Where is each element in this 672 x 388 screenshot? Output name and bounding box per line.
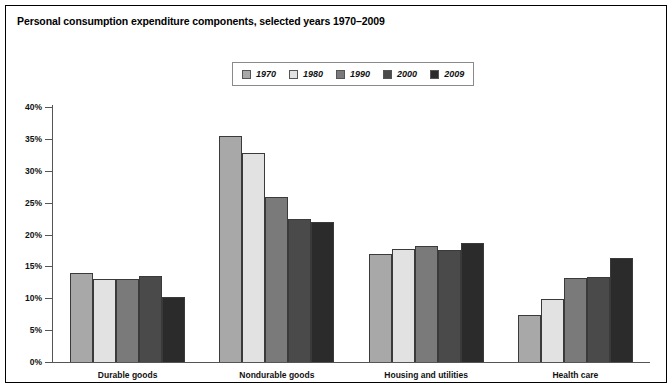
legend-item[interactable]: 1980 bbox=[289, 69, 323, 79]
legend-swatch-icon bbox=[242, 70, 251, 79]
legend-item-label: 2000 bbox=[397, 69, 417, 79]
legend-swatch-icon bbox=[336, 70, 345, 79]
x-axis-category-label: Durable goods bbox=[98, 370, 158, 380]
legend-swatch-icon bbox=[289, 70, 298, 79]
y-axis-tick bbox=[45, 235, 52, 236]
legend-item-label: 2009 bbox=[444, 69, 464, 79]
bar[interactable] bbox=[139, 276, 162, 362]
bar[interactable] bbox=[415, 246, 438, 362]
x-axis-category-label: Housing and utilities bbox=[384, 370, 468, 380]
x-axis-category-label: Health care bbox=[552, 370, 598, 380]
bar[interactable] bbox=[242, 153, 265, 362]
bar[interactable] bbox=[162, 297, 185, 362]
bar[interactable] bbox=[610, 258, 633, 362]
bar-group bbox=[369, 107, 484, 362]
y-axis-tick bbox=[45, 171, 52, 172]
bar[interactable] bbox=[392, 249, 415, 362]
y-axis-tick-label: 30% bbox=[2, 166, 42, 176]
bar[interactable] bbox=[438, 250, 461, 362]
y-axis-tick-label: 10% bbox=[2, 293, 42, 303]
bar[interactable] bbox=[288, 219, 311, 362]
legend-item[interactable]: 2009 bbox=[430, 69, 464, 79]
legend-swatch-icon bbox=[430, 70, 439, 79]
x-axis-line bbox=[45, 362, 650, 363]
y-axis-tick bbox=[45, 139, 52, 140]
y-axis-tick bbox=[45, 362, 52, 363]
y-axis-tick-label: 20% bbox=[2, 230, 42, 240]
bar[interactable] bbox=[518, 315, 541, 362]
legend-swatch-icon bbox=[383, 70, 392, 79]
legend-item-label: 1990 bbox=[350, 69, 370, 79]
bar[interactable] bbox=[70, 273, 93, 362]
bar[interactable] bbox=[311, 222, 334, 362]
bar[interactable] bbox=[116, 279, 139, 362]
y-axis-tick-label: 0% bbox=[2, 357, 42, 367]
chart-legend: 19701980199020002009 bbox=[232, 62, 474, 86]
y-axis-tick bbox=[45, 107, 52, 108]
bar[interactable] bbox=[564, 278, 587, 362]
bar-group bbox=[518, 107, 633, 362]
bar-group bbox=[219, 107, 334, 362]
y-axis-tick-label: 40% bbox=[2, 102, 42, 112]
bar[interactable] bbox=[265, 197, 288, 362]
bar[interactable] bbox=[541, 299, 564, 362]
y-axis-tick-label: 15% bbox=[2, 261, 42, 271]
y-axis-tick-label: 25% bbox=[2, 198, 42, 208]
y-axis-line bbox=[52, 105, 53, 363]
x-axis-category-label: Nondurable goods bbox=[239, 370, 314, 380]
legend-item[interactable]: 2000 bbox=[383, 69, 417, 79]
y-axis-tick bbox=[45, 298, 52, 299]
y-axis-tick bbox=[45, 266, 52, 267]
y-axis-tick bbox=[45, 203, 52, 204]
bar[interactable] bbox=[219, 136, 242, 362]
y-axis-tick-label: 35% bbox=[2, 134, 42, 144]
chart-figure: Personal consumption expenditure compone… bbox=[0, 0, 672, 388]
y-axis-tick bbox=[45, 330, 52, 331]
bar-group bbox=[70, 107, 185, 362]
legend-item-label: 1980 bbox=[303, 69, 323, 79]
y-axis-tick-label: 5% bbox=[2, 325, 42, 335]
bar[interactable] bbox=[461, 243, 484, 362]
bar[interactable] bbox=[369, 254, 392, 362]
legend-item-label: 1970 bbox=[256, 69, 276, 79]
legend-item[interactable]: 1970 bbox=[242, 69, 276, 79]
legend-item[interactable]: 1990 bbox=[336, 69, 370, 79]
y-axis-labels: 0%5%10%15%20%25%30%35%40% bbox=[0, 0, 42, 388]
bar[interactable] bbox=[93, 279, 116, 362]
bar[interactable] bbox=[587, 277, 610, 362]
chart-title: Personal consumption expenditure compone… bbox=[17, 15, 385, 27]
